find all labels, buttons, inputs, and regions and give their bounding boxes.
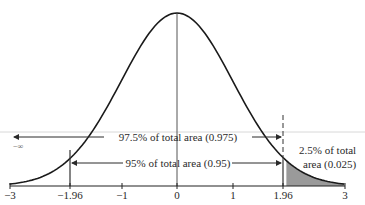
tick-label: −1.96 [57, 189, 83, 201]
tick-label: −1 [116, 189, 128, 201]
tick-label: 1.96 [273, 189, 293, 201]
axis-tick-labels: −3 −1.96 −1 0 1 1.96 3 [4, 189, 348, 201]
tick-label: 1 [230, 189, 236, 201]
tick-label: −3 [4, 189, 16, 201]
tail-label-line2: area (0.025) [303, 158, 356, 171]
area-95-label: 95% of total area (0.95) [126, 157, 231, 170]
area-975-label: 97.5% of total area (0.975) [119, 131, 238, 144]
neg-infinity-label: −∞ [13, 142, 24, 151]
tick-label: 3 [342, 189, 348, 201]
tail-label-line1: 2.5% of total [299, 144, 356, 156]
normal-distribution-diagram: −3 −1.96 −1 0 1 1.96 3 97.5% of total ar… [0, 0, 365, 205]
tick-label: 0 [174, 189, 180, 201]
